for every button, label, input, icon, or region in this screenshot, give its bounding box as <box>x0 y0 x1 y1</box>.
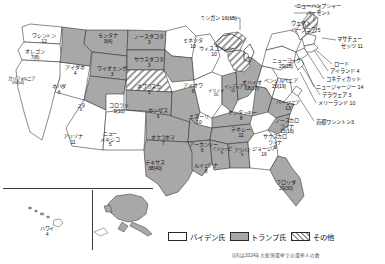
legend-swatch-trump <box>230 232 249 241</box>
callout-top-label: ミシガン 16(15) <box>200 15 237 22</box>
callout-right-label: セッツ 11 <box>341 43 363 50</box>
legend-swatch-biden <box>168 232 187 241</box>
inset-frame <box>3 188 153 251</box>
legend-item: その他 <box>291 231 334 242</box>
legend-swatch-other <box>291 232 310 241</box>
callout-right-label: アイランド 4 <box>330 68 359 75</box>
inset-divider <box>92 190 93 250</box>
callout-top-label: バージニア 5 <box>291 27 320 34</box>
legend-label: トランプ氏 <box>251 231 286 242</box>
legend-label: バイデン氏 <box>190 231 225 242</box>
callout-right-label: 首都ワシントン3 <box>316 119 354 126</box>
callout-right-label: デラウェア 3 <box>322 92 351 99</box>
legend-item: バイデン氏 <box>168 231 225 242</box>
callout-top-label: ウェスト <box>291 20 311 27</box>
legend-footnote: ()内は2024年大統領選挙での選挙人の数 <box>232 252 320 258</box>
legend-label: その他 <box>313 231 334 242</box>
callout-right-label: コネティカット <box>326 76 361 83</box>
electoral-map: .s{stroke:#2b2b2b;stroke-width:0.55;stro… <box>0 0 385 264</box>
callout-right-label: メリーランド 10 <box>318 100 355 107</box>
legend-item: トランプ氏 <box>230 231 287 242</box>
callout-right-label: ニュージャージー 14 <box>316 84 363 91</box>
callout-top-label: ニューハンプシャー <box>296 3 341 10</box>
callout-right-label: ロード <box>334 61 349 68</box>
callout-top-label: バーモント <box>306 10 331 17</box>
map-legend: バイデン氏トランプ氏その他 <box>168 228 383 244</box>
callout-right-label: マサチュー <box>337 36 362 43</box>
